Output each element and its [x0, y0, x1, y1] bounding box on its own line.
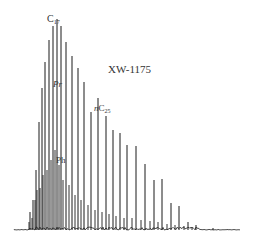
phytane-label: Ph	[56, 156, 66, 165]
nc25-label: nC25	[94, 104, 111, 114]
sample-id-label: XW-1175	[108, 64, 151, 75]
major-peaks	[30, 19, 213, 230]
c17-label: C17	[47, 14, 60, 25]
pristane-label: Pr	[53, 80, 62, 89]
chromatogram-plot	[0, 0, 261, 252]
